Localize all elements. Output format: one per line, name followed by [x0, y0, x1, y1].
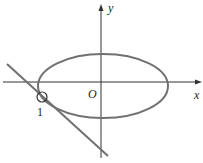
- marker-label: 1: [37, 106, 43, 118]
- x-axis-arrow-icon: [195, 80, 202, 85]
- diagram-canvas: [0, 0, 203, 163]
- origin-label: O: [88, 88, 97, 100]
- x-axis-label: x: [194, 89, 199, 101]
- y-axis-label: y: [108, 2, 113, 14]
- diagram: y x O 1: [0, 0, 203, 163]
- y-axis-arrow-icon: [99, 4, 104, 11]
- ellipse-curve: [38, 54, 168, 118]
- tangent-line: [7, 64, 108, 156]
